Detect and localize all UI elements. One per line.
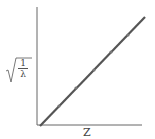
y-axis-label: 1 λ [5, 56, 33, 86]
y-label-numerator: 1 [18, 58, 28, 69]
data-line [40, 17, 145, 126]
x-axis-label: Z [83, 126, 91, 139]
y-label-denominator: λ [18, 69, 28, 79]
